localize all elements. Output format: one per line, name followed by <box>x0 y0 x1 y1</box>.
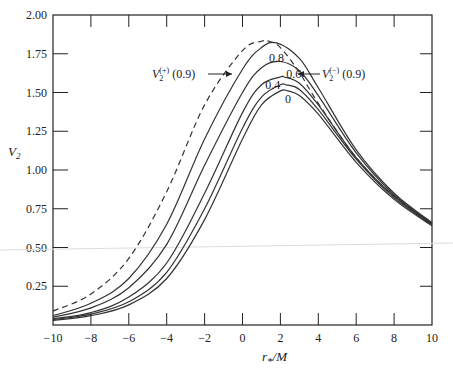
x-tick-label: 10 <box>426 331 438 345</box>
y-tick-label: 0.75 <box>26 202 47 216</box>
y-tick-label: 1.75 <box>26 47 47 61</box>
y-tick-label: 1.50 <box>26 86 47 100</box>
y-tick-label: 1.00 <box>26 163 47 177</box>
y-tick-label: 1.25 <box>26 124 47 138</box>
y-axis-title: V2 <box>8 144 21 161</box>
x-axis-title: r*/M <box>262 349 288 367</box>
y-tick-label: 2.00 <box>26 8 47 22</box>
curve-0 <box>53 90 432 321</box>
curve-label-0.4: 0.4 <box>265 78 280 92</box>
x-tick-label: −2 <box>198 331 211 345</box>
curve-0.4 <box>53 84 432 320</box>
x-tick-label: −6 <box>122 331 135 345</box>
annotation-label: V2(+) (0.9) <box>152 66 195 83</box>
x-tick-label: 0 <box>240 331 246 345</box>
y-tick-label: 0.50 <box>26 241 47 255</box>
scan-artifact <box>0 243 453 250</box>
y-tick-label: 0.25 <box>26 279 47 293</box>
potential-chart: −10−8−6−4−202468100.250.500.751.001.251.… <box>0 0 453 373</box>
x-tick-label: 2 <box>277 331 283 345</box>
axes: −10−8−6−4−202468100.250.500.751.001.251.… <box>0 8 453 345</box>
curve-label-0.8: 0.8 <box>269 51 284 65</box>
plot-frame <box>53 15 432 325</box>
annotation-label: V2(−) (0.9) <box>322 66 365 83</box>
curves <box>53 40 432 320</box>
labels: 00.40.60.8V2(+) (0.9)V2(−) (0.9) <box>152 51 365 105</box>
x-tick-label: −4 <box>160 331 173 345</box>
x-tick-label: 4 <box>315 331 321 345</box>
x-tick-label: 6 <box>353 331 359 345</box>
curve-0.6 <box>53 76 432 319</box>
x-tick-label: 8 <box>391 331 397 345</box>
x-tick-label: −10 <box>44 331 63 345</box>
curve-label-0: 0 <box>285 92 291 106</box>
x-tick-label: −8 <box>85 331 98 345</box>
arrow-head <box>226 71 232 77</box>
